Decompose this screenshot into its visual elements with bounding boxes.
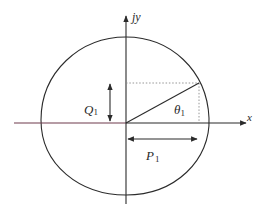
q1-label: Q1	[84, 102, 98, 117]
radius-line	[126, 83, 199, 123]
p1-label: P1	[145, 148, 159, 164]
x-axis-label: x	[246, 111, 252, 123]
p1-label-main: P	[145, 148, 154, 163]
y-axis-label: jy	[130, 10, 141, 24]
p1-label-subscript: 1	[155, 154, 160, 164]
theta1-label: θ1	[174, 102, 185, 118]
q1-label-subscript: 1	[93, 107, 98, 117]
theta1-label-subscript: 1	[180, 108, 185, 118]
phasor-diagram: jy x Q1 θ1 P1	[0, 0, 268, 207]
